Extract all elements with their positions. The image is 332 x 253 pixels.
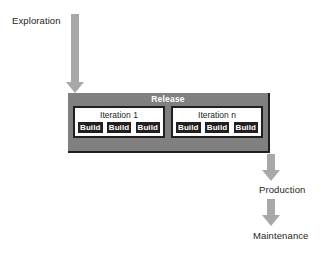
iteration-box: Iteration 1 Build Build Build xyxy=(73,106,165,138)
build-box: Build xyxy=(234,122,259,133)
iteration-title: Iteration 1 xyxy=(78,110,160,121)
maintenance-label: Maintenance xyxy=(253,230,309,241)
build-box: Build xyxy=(176,122,201,133)
arrow-shaft xyxy=(71,14,79,82)
iteration-group: Iteration 1 Build Build Build Iteration … xyxy=(73,106,263,138)
build-box: Build xyxy=(78,122,103,133)
arrow-head xyxy=(262,215,280,226)
production-label: Production xyxy=(259,184,305,195)
release-box: Release Iteration 1 Build Build Build It… xyxy=(68,93,270,153)
exploration-arrow-down-icon xyxy=(65,14,85,93)
iteration-title: Iteration n xyxy=(176,110,258,121)
build-box: Build xyxy=(107,122,132,133)
build-box: Build xyxy=(136,122,161,133)
iteration-box: Iteration n Build Build Build xyxy=(171,106,263,138)
arrow-shaft xyxy=(267,154,275,170)
exploration-label: Exploration xyxy=(12,15,61,26)
build-box: Build xyxy=(205,122,230,133)
release-title: Release xyxy=(68,94,268,104)
production-arrow-down-icon xyxy=(261,154,281,181)
maintenance-arrow-down-icon xyxy=(261,199,281,226)
arrow-shaft xyxy=(267,199,275,215)
build-group: Build Build Build xyxy=(176,122,258,133)
diagram-canvas: Exploration Release Iteration 1 Build Bu… xyxy=(0,0,332,253)
arrow-head xyxy=(66,82,84,93)
build-group: Build Build Build xyxy=(78,122,160,133)
arrow-head xyxy=(262,170,280,181)
